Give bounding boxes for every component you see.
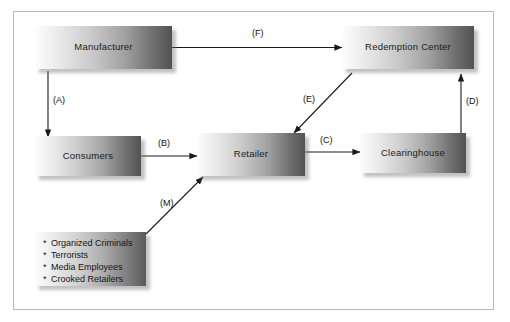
- bullet-star: *: [43, 237, 51, 249]
- connector-label-C: (C): [320, 135, 333, 145]
- list-item: *Organized Criminals: [43, 237, 146, 249]
- bullet-star: *: [43, 273, 51, 285]
- connector-label-E: (E): [303, 94, 315, 104]
- node-redemption-center-label: Redemption Center: [365, 42, 451, 52]
- connector-label-M: (M): [160, 198, 174, 208]
- list-item-label: Crooked Retailers: [51, 274, 123, 284]
- bullet-star: *: [43, 261, 51, 273]
- list-item-label: Organized Criminals: [51, 238, 133, 248]
- node-clearinghouse-label: Clearinghouse: [381, 148, 445, 158]
- list-item-label: Terrorists: [51, 250, 88, 260]
- bullet-star: *: [43, 249, 51, 261]
- connector-label-A: (A): [53, 95, 65, 105]
- connector-label-F: (F): [252, 28, 264, 38]
- node-consumers-label: Consumers: [63, 151, 113, 161]
- connector-label-D: (D): [466, 96, 479, 106]
- node-manufacturer-label: Manufacturer: [74, 42, 132, 52]
- node-retailer[interactable]: Retailer: [197, 133, 305, 176]
- node-criminals[interactable]: *Organized Criminals *Terrorists *Media …: [35, 232, 146, 286]
- node-redemption-center[interactable]: Redemption Center: [342, 26, 474, 69]
- list-item: *Terrorists: [43, 249, 146, 261]
- node-manufacturer[interactable]: Manufacturer: [35, 26, 172, 69]
- list-item: *Media Employees: [43, 261, 146, 273]
- connector-label-B: (B): [158, 138, 170, 148]
- diagram-root: Redemption Center --> Manufactu: [0, 0, 510, 322]
- list-item: *Crooked Retailers: [43, 273, 146, 285]
- node-clearinghouse[interactable]: Clearinghouse: [360, 133, 466, 173]
- node-retailer-label: Retailer: [234, 149, 268, 159]
- node-consumers[interactable]: Consumers: [35, 136, 141, 176]
- list-item-label: Media Employees: [51, 262, 123, 272]
